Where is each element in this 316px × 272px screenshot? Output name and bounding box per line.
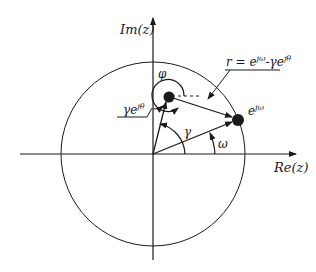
z-plane-diagram: Im(z) Re(z) φ γ ω γejθ ejω r = ejω-γejθ <box>0 0 316 272</box>
imag-axis-label: Im(z) <box>119 22 154 37</box>
unit-circle-point <box>232 114 244 126</box>
pole-label: γejθ <box>123 102 145 117</box>
pole-point <box>164 92 175 103</box>
real-axis-label: Re(z) <box>273 160 308 175</box>
omega-label: ω <box>218 137 228 151</box>
omega-arc <box>210 133 215 154</box>
r-equation-label: r = ejω-γejθ <box>226 54 291 69</box>
gamma-label: γ <box>184 125 192 139</box>
r-leader <box>208 70 230 99</box>
r-vector <box>170 97 232 117</box>
point-label: ejω <box>248 103 265 118</box>
phi-label: φ <box>158 67 167 81</box>
